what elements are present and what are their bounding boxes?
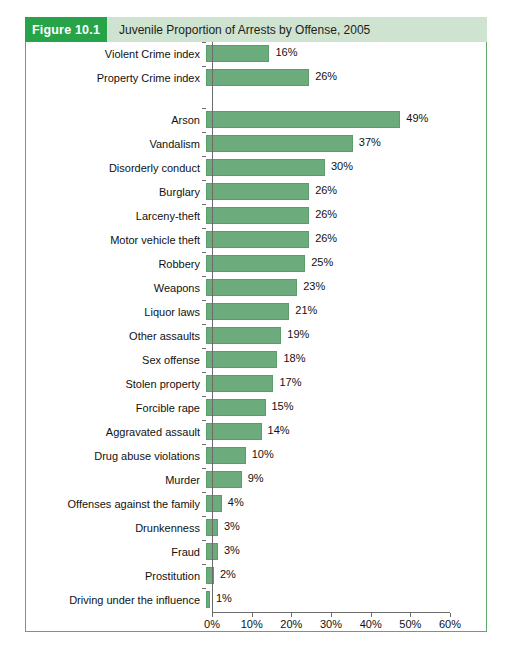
figure-title: Juvenile Proportion of Arrests by Offens…	[107, 17, 487, 42]
y-axis-tick	[202, 66, 206, 67]
bar-value-label: 23%	[303, 281, 325, 292]
bar-track: 26%	[206, 180, 487, 204]
chart-row: Offenses against the family4%	[25, 492, 487, 516]
bar-category-label: Motor vehicle theft	[25, 235, 206, 246]
bar	[206, 351, 277, 368]
bar	[206, 159, 325, 176]
chart-row: Sex offense18%	[25, 348, 487, 372]
bar	[206, 69, 309, 86]
y-axis-tick	[202, 564, 206, 565]
bar-track: 10%	[206, 444, 487, 468]
bar-track: 26%	[206, 204, 487, 228]
bar-track: 37%	[206, 132, 487, 156]
x-axis-tick-label: 40%	[360, 619, 382, 630]
bar-value-label: 17%	[279, 377, 301, 388]
y-axis-tick	[202, 180, 206, 181]
bar-category-label: Offenses against the family	[25, 499, 206, 510]
x-axis-tick-labels: 0%10%20%30%40%50%60%	[212, 619, 450, 633]
y-axis-tick	[202, 156, 206, 157]
bar-category-label: Larceny-theft	[25, 211, 206, 222]
chart-row: Vandalism37%	[25, 132, 487, 156]
y-axis-tick	[202, 492, 206, 493]
chart-row: Forcible rape15%	[25, 396, 487, 420]
bar-value-label: 37%	[359, 137, 381, 148]
bar	[206, 45, 269, 62]
x-axis-tick	[371, 613, 372, 617]
y-axis-line	[212, 42, 213, 612]
y-axis-tick	[202, 324, 206, 325]
chart-rows: Violent Crime index16%Property Crime ind…	[25, 42, 487, 612]
bar	[206, 279, 297, 296]
bar	[206, 399, 266, 416]
figure-number-tag: Figure 10.1	[25, 17, 107, 42]
bar-category-label: Property Crime index	[25, 73, 206, 84]
bar-category-label: Drug abuse violations	[25, 451, 206, 462]
x-axis-tick-label: 20%	[280, 619, 302, 630]
chart-row: Weapons23%	[25, 276, 487, 300]
bar-track: 49%	[206, 108, 487, 132]
bar-category-label: Murder	[25, 475, 206, 486]
bar-category-label: Disorderly conduct	[25, 163, 206, 174]
bar-value-label: 30%	[331, 161, 353, 172]
y-axis-tick	[202, 276, 206, 277]
y-axis-tick	[202, 588, 206, 589]
bar-track: 26%	[206, 228, 487, 252]
bar-value-label: 9%	[248, 473, 264, 484]
bar-value-label: 2%	[220, 569, 236, 580]
bar-value-label: 1%	[216, 593, 232, 604]
bar-value-label: 18%	[283, 353, 305, 364]
bar	[206, 591, 210, 608]
bar-value-label: 16%	[275, 47, 297, 58]
bar-track: 15%	[206, 396, 487, 420]
chart-row-spacer	[25, 90, 487, 108]
bar-track: 23%	[206, 276, 487, 300]
bar	[206, 111, 400, 128]
bar-value-label: 4%	[228, 497, 244, 508]
bar-track: 26%	[206, 66, 487, 90]
bar	[206, 207, 309, 224]
y-axis-tick	[202, 420, 206, 421]
bar-category-label: Drunkenness	[25, 523, 206, 534]
x-axis-tick	[291, 613, 292, 617]
bar	[206, 495, 222, 512]
y-axis-tick	[202, 396, 206, 397]
bar-track: 14%	[206, 420, 487, 444]
y-axis-tick	[202, 108, 206, 109]
bar-value-label: 3%	[224, 545, 240, 556]
chart-row: Stolen property17%	[25, 372, 487, 396]
x-axis-tick-label: 50%	[399, 619, 421, 630]
chart-row: Liquor laws21%	[25, 300, 487, 324]
bar-category-label: Prostitution	[25, 571, 206, 582]
bar-category-label: Violent Crime index	[25, 49, 206, 60]
x-axis-tick	[450, 613, 451, 617]
bar-track: 4%	[206, 492, 487, 516]
chart-row: Larceny-theft26%	[25, 204, 487, 228]
bar-value-label: 10%	[252, 449, 274, 460]
bar	[206, 255, 305, 272]
y-axis-tick	[202, 204, 206, 205]
chart-plot-area: Violent Crime index16%Property Crime ind…	[25, 42, 487, 632]
x-axis-tick	[410, 613, 411, 617]
bar-category-label: Other assaults	[25, 331, 206, 342]
bar-value-label: 15%	[272, 401, 294, 412]
chart-row: Property Crime index26%	[25, 66, 487, 90]
bar-category-label: Driving under the influence	[25, 595, 206, 606]
chart-row: Aggravated assault14%	[25, 420, 487, 444]
chart-row: Prostitution2%	[25, 564, 487, 588]
bar-category-label: Forcible rape	[25, 403, 206, 414]
x-axis-tick	[252, 613, 253, 617]
chart-row: Arson49%	[25, 108, 487, 132]
x-axis-tick-label: 0%	[204, 619, 220, 630]
bar-track: 2%	[206, 564, 487, 588]
y-axis-tick	[202, 444, 206, 445]
bar	[206, 135, 353, 152]
bar-category-label: Liquor laws	[25, 307, 206, 318]
bar-value-label: 49%	[406, 113, 428, 124]
chart-row: Violent Crime index16%	[25, 42, 487, 66]
bar-track: 3%	[206, 516, 487, 540]
chart-row: Other assaults19%	[25, 324, 487, 348]
bar-track: 21%	[206, 300, 487, 324]
bar-track: 1%	[206, 588, 487, 612]
bar	[206, 327, 281, 344]
chart-row: Motor vehicle theft26%	[25, 228, 487, 252]
